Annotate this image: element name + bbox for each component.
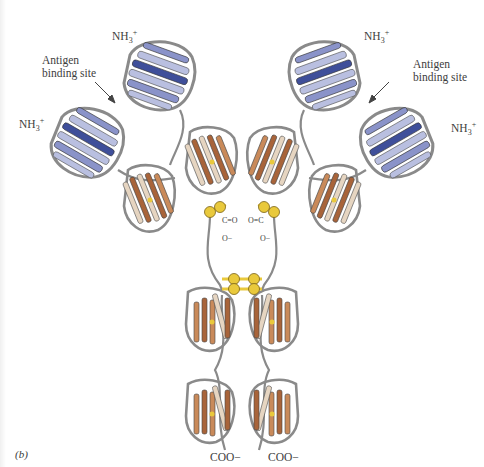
antigen-binding-site-label-right: Antigen binding site xyxy=(413,58,467,84)
fc-domain-ch2-left xyxy=(186,288,234,351)
nh3-label-mid-left: NH3+ xyxy=(19,114,44,135)
carboxyl-oxygen-left: O− xyxy=(222,232,232,245)
nh3-label-top-right: NH3+ xyxy=(364,26,389,47)
hinge-disulfide-bonds xyxy=(222,274,262,295)
constant-domain-ch1-left xyxy=(184,127,236,193)
variable-domain-light-left xyxy=(46,103,128,183)
variable-domain-light-right xyxy=(356,103,438,183)
constant-domain-cl-left xyxy=(122,165,174,231)
c-terminus-label-right: COO− xyxy=(268,451,299,464)
variable-domain-heavy-left xyxy=(124,42,195,111)
constant-domain-ch1-right xyxy=(247,127,299,193)
c-terminus-label-left: COO− xyxy=(210,451,241,464)
carboxyl-label-right: O=C xyxy=(248,214,264,227)
fc-domain-ch3-left xyxy=(186,380,234,443)
fc-domain-ch3-right xyxy=(250,380,298,443)
nh3-label-mid-right: NH3+ xyxy=(451,118,476,139)
antigen-binding-site-label-left: Antigen binding site xyxy=(42,54,96,80)
variable-domain-heavy-right xyxy=(289,42,360,111)
panel-label: (b) xyxy=(15,448,28,460)
nh3-label-top-left: NH3+ xyxy=(112,26,137,47)
carboxyl-oxygen-right: O− xyxy=(260,232,270,245)
carboxyl-label-left: C=O xyxy=(222,214,238,227)
constant-domain-cl-right xyxy=(309,165,361,231)
fc-domain-ch2-right xyxy=(250,288,298,351)
